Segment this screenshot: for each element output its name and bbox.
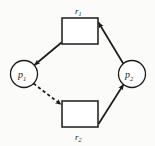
edge-r2-to-p2 bbox=[99, 85, 124, 125]
resource-label-r2: r2 bbox=[75, 132, 82, 143]
resource-label-r2-sub: 2 bbox=[79, 137, 82, 143]
resource-label-r1: r1 bbox=[75, 6, 82, 17]
edge-r1-to-p1 bbox=[35, 43, 62, 66]
edge-p1-to-r2 bbox=[34, 84, 62, 105]
diagram-canvas: r1 r2 p1 p2 bbox=[0, 0, 155, 146]
resource-label-r1-sub: 1 bbox=[79, 11, 82, 17]
edge-p2-to-r1 bbox=[99, 23, 124, 65]
process-label-p1-sub: 1 bbox=[23, 75, 26, 82]
resource-node-r2 bbox=[62, 101, 98, 127]
resource-allocation-diagram: r1 r2 p1 p2 bbox=[0, 0, 155, 146]
resource-node-r1 bbox=[62, 18, 98, 44]
